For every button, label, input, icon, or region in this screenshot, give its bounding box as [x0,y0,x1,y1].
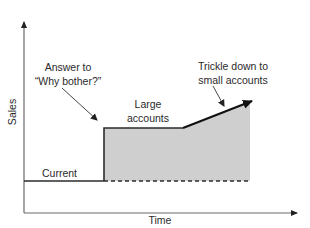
answer-callout-line1: Answer to [45,61,92,73]
current-label: Current [42,167,77,179]
large-accounts-label-line1: Large [135,98,162,110]
answer-callout-line2: “Why bother?” [35,75,102,87]
large-accounts-label-line2: accounts [127,112,169,124]
trickle-callout-line2: small accounts [198,74,267,86]
y-axis-label: Sales [6,99,18,125]
sales-diagram: Answer to “Why bother?” Trickle down to … [0,0,310,228]
x-axis-label: Time [149,214,172,226]
trickle-pointer-arrow [213,86,224,106]
trickle-callout-line1: Trickle down to [198,60,268,72]
answer-pointer-arrow [62,88,97,120]
growth-area [104,102,250,181]
